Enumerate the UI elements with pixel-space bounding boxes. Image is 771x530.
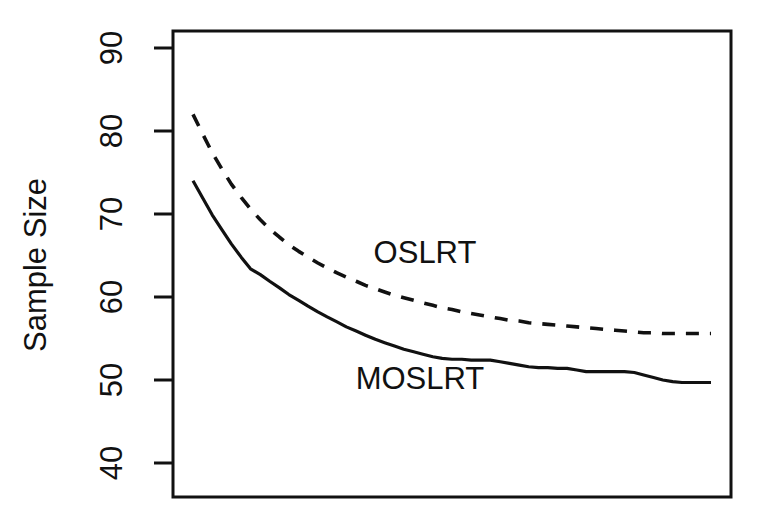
y-axis-tick-marks bbox=[154, 48, 173, 463]
y-tick-label-90: 90 bbox=[94, 31, 129, 65]
y-tick-label-40: 40 bbox=[94, 446, 129, 480]
series-line-oslrt bbox=[193, 114, 711, 333]
series-annotation-moslrt: MOSLRT bbox=[356, 361, 485, 396]
series-annotation-oslrt: OSLRT bbox=[374, 235, 477, 270]
y-tick-label-70: 70 bbox=[94, 197, 129, 231]
y-tick-label-50: 50 bbox=[94, 363, 129, 397]
y-axis-title: Sample Size bbox=[18, 178, 53, 352]
figure-root: Sample Size 40 50 60 70 80 90 OSLRT MOSL… bbox=[0, 0, 771, 530]
y-tick-label-60: 60 bbox=[94, 280, 129, 314]
y-axis-tick-labels: 40 50 60 70 80 90 bbox=[94, 31, 129, 480]
series-line-moslrt bbox=[193, 181, 711, 383]
y-tick-label-80: 80 bbox=[94, 114, 129, 148]
sample-size-line-chart: Sample Size 40 50 60 70 80 90 OSLRT MOSL… bbox=[0, 0, 771, 530]
